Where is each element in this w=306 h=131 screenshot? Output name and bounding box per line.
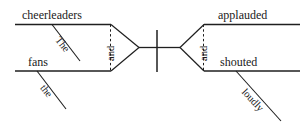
subject-one-label: cheerleaders [22, 9, 82, 21]
predicate-wedge-upper [180, 25, 204, 48]
predicate-conjunction-label: and [199, 46, 210, 61]
subject-conjunction-label: and [106, 46, 117, 61]
predicate-two-label: shouted [220, 56, 257, 68]
subject-wedge-upper [111, 25, 139, 48]
predicate-one-label: applauded [218, 9, 267, 21]
subject-two-label: fans [28, 56, 48, 68]
sentence-diagram: cheerleaders The fans the and applauded … [0, 0, 306, 131]
